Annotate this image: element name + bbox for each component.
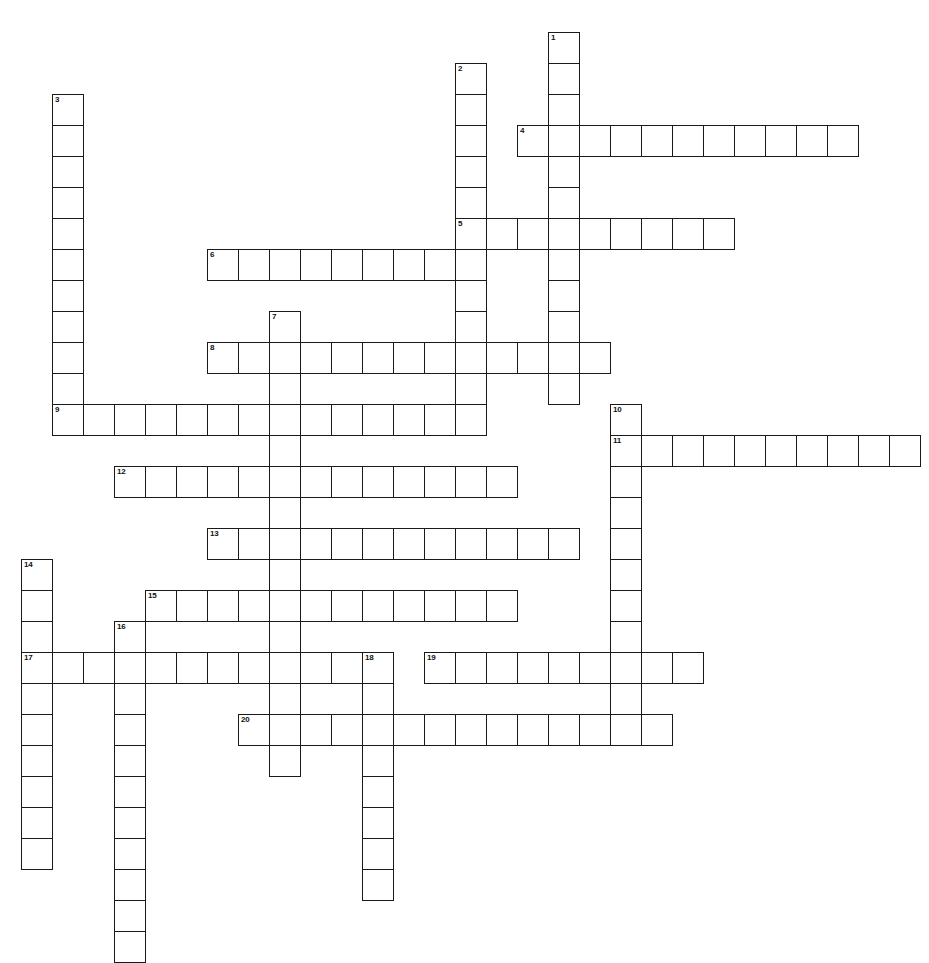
crossword-cell[interactable]	[114, 683, 146, 715]
crossword-cell[interactable]: 7	[269, 311, 301, 343]
crossword-cell[interactable]: 13	[207, 528, 239, 560]
crossword-cell[interactable]	[548, 714, 580, 746]
crossword-cell[interactable]	[517, 528, 549, 560]
crossword-cell[interactable]: 12	[114, 466, 146, 498]
crossword-cell[interactable]	[145, 404, 177, 436]
crossword-cell[interactable]: 14	[21, 559, 53, 591]
crossword-cell[interactable]	[486, 714, 518, 746]
crossword-cell[interactable]	[362, 590, 394, 622]
crossword-cell[interactable]	[610, 590, 642, 622]
crossword-cell[interactable]	[610, 683, 642, 715]
crossword-cell[interactable]	[52, 280, 84, 312]
crossword-cell[interactable]	[269, 249, 301, 281]
crossword-cell[interactable]	[52, 249, 84, 281]
crossword-cell[interactable]	[331, 466, 363, 498]
crossword-cell[interactable]	[362, 869, 394, 901]
crossword-cell[interactable]	[641, 714, 673, 746]
crossword-cell[interactable]	[269, 559, 301, 591]
crossword-cell[interactable]	[455, 249, 487, 281]
crossword-cell[interactable]	[610, 621, 642, 653]
crossword-cell[interactable]	[486, 590, 518, 622]
crossword-cell[interactable]	[21, 838, 53, 870]
crossword-cell[interactable]	[548, 342, 580, 374]
crossword-cell[interactable]	[734, 435, 766, 467]
crossword-cell[interactable]	[300, 466, 332, 498]
crossword-cell[interactable]	[21, 807, 53, 839]
crossword-cell[interactable]	[238, 528, 270, 560]
crossword-cell[interactable]	[455, 311, 487, 343]
crossword-cell[interactable]: 20	[238, 714, 270, 746]
crossword-cell[interactable]	[21, 745, 53, 777]
crossword-cell[interactable]	[238, 404, 270, 436]
crossword-cell[interactable]: 15	[145, 590, 177, 622]
crossword-cell[interactable]	[362, 528, 394, 560]
crossword-cell[interactable]	[238, 590, 270, 622]
crossword-cell[interactable]	[548, 63, 580, 95]
crossword-cell[interactable]	[52, 311, 84, 343]
crossword-cell[interactable]	[21, 621, 53, 653]
crossword-cell[interactable]	[827, 125, 859, 157]
crossword-cell[interactable]	[52, 652, 84, 684]
crossword-cell[interactable]	[610, 497, 642, 529]
crossword-cell[interactable]	[827, 435, 859, 467]
crossword-cell[interactable]	[114, 652, 146, 684]
crossword-cell[interactable]	[393, 404, 425, 436]
crossword-cell[interactable]	[486, 528, 518, 560]
crossword-cell[interactable]	[83, 652, 115, 684]
crossword-cell[interactable]	[579, 125, 611, 157]
crossword-cell[interactable]	[424, 342, 456, 374]
crossword-cell[interactable]	[424, 714, 456, 746]
crossword-cell[interactable]: 6	[207, 249, 239, 281]
crossword-cell[interactable]	[455, 590, 487, 622]
crossword-cell[interactable]	[486, 652, 518, 684]
crossword-cell[interactable]	[269, 652, 301, 684]
crossword-cell[interactable]	[114, 869, 146, 901]
crossword-cell[interactable]	[362, 249, 394, 281]
crossword-cell[interactable]	[610, 466, 642, 498]
crossword-cell[interactable]: 10	[610, 404, 642, 436]
crossword-cell[interactable]	[455, 404, 487, 436]
crossword-cell[interactable]	[362, 466, 394, 498]
crossword-cell[interactable]	[114, 404, 146, 436]
crossword-cell[interactable]	[858, 435, 890, 467]
crossword-cell[interactable]	[362, 714, 394, 746]
crossword-cell[interactable]	[548, 94, 580, 126]
crossword-cell[interactable]	[269, 745, 301, 777]
crossword-cell[interactable]: 4	[517, 125, 549, 157]
crossword-cell[interactable]	[424, 590, 456, 622]
crossword-cell[interactable]	[517, 714, 549, 746]
crossword-cell[interactable]	[548, 311, 580, 343]
crossword-cell[interactable]	[548, 249, 580, 281]
crossword-cell[interactable]	[362, 745, 394, 777]
crossword-cell[interactable]	[796, 435, 828, 467]
crossword-cell[interactable]	[455, 125, 487, 157]
crossword-cell[interactable]	[269, 621, 301, 653]
crossword-cell[interactable]	[176, 652, 208, 684]
crossword-cell[interactable]	[455, 466, 487, 498]
crossword-cell[interactable]	[610, 652, 642, 684]
crossword-cell[interactable]: 8	[207, 342, 239, 374]
crossword-cell[interactable]	[362, 838, 394, 870]
crossword-cell[interactable]	[21, 683, 53, 715]
crossword-cell[interactable]	[393, 528, 425, 560]
crossword-cell[interactable]	[269, 590, 301, 622]
crossword-cell[interactable]	[52, 373, 84, 405]
crossword-cell[interactable]	[207, 466, 239, 498]
crossword-cell[interactable]	[300, 590, 332, 622]
crossword-cell[interactable]: 16	[114, 621, 146, 653]
crossword-cell[interactable]	[269, 683, 301, 715]
crossword-cell[interactable]: 17	[21, 652, 53, 684]
crossword-cell[interactable]	[548, 187, 580, 219]
crossword-cell[interactable]	[176, 404, 208, 436]
crossword-cell[interactable]	[672, 652, 704, 684]
crossword-cell[interactable]	[52, 218, 84, 250]
crossword-cell[interactable]	[238, 342, 270, 374]
crossword-cell[interactable]	[300, 249, 332, 281]
crossword-cell[interactable]	[362, 342, 394, 374]
crossword-cell[interactable]: 3	[52, 94, 84, 126]
crossword-cell[interactable]	[393, 714, 425, 746]
crossword-cell[interactable]	[517, 342, 549, 374]
crossword-cell[interactable]	[52, 156, 84, 188]
crossword-cell[interactable]	[269, 373, 301, 405]
crossword-cell[interactable]	[486, 218, 518, 250]
